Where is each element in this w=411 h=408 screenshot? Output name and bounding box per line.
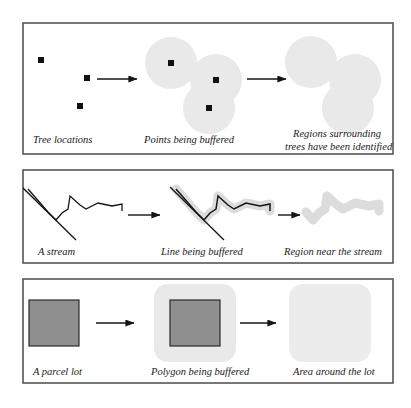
parcel-lot-rect: [29, 300, 79, 346]
polygon-buffer-pad: [289, 284, 371, 362]
buffer-operations-figure: Tree locations Points being buffered Reg…: [0, 0, 411, 408]
tree-point-marker: [168, 60, 174, 66]
tree-point-marker: [38, 57, 44, 63]
caption-area-around-the-lot: Area around the lot: [292, 366, 376, 377]
caption-region-near-the-stream: Region near the stream: [283, 246, 382, 257]
panel-polygon-buffer: A parcel lot Polygon being buffered Area…: [23, 279, 393, 383]
caption-regions-surrounding-trees-line1: Regions surrounding: [292, 128, 381, 139]
panel-point-buffer: Tree locations Points being buffered Reg…: [23, 23, 393, 154]
panel-line-buffer: A stream Line being buffered Region near…: [22, 170, 393, 263]
caption-line-being-buffered: Line being buffered: [160, 246, 244, 257]
caption-regions-surrounding-trees-line2: trees have been identified: [285, 141, 393, 152]
parcel-lot-rect: [170, 300, 220, 346]
tree-point-marker: [206, 105, 212, 111]
caption-a-parcel-lot: A parcel lot: [32, 366, 83, 377]
tree-point-marker: [84, 75, 90, 81]
point-buffer-circle: [322, 82, 374, 134]
tree-point-marker: [77, 103, 83, 109]
caption-tree-locations: Tree locations: [33, 134, 92, 145]
caption-a-stream: A stream: [37, 246, 75, 257]
tree-point-marker: [213, 77, 219, 83]
caption-points-being-buffered: Points being buffered: [143, 134, 235, 145]
caption-polygon-being-buffered: Polygon being buffered: [150, 366, 250, 377]
